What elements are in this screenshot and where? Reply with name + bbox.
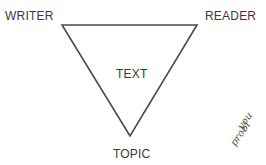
writer-label: WRITER (5, 9, 54, 23)
topic-label: TOPIC (113, 147, 150, 161)
triangle-shape (0, 0, 266, 165)
text-label: TEXT (116, 67, 147, 81)
reader-label: READER (205, 9, 256, 23)
